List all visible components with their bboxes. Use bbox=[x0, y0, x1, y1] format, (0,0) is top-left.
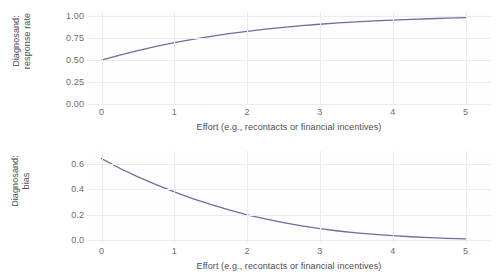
gridline-horizontal bbox=[87, 240, 491, 241]
y-axis-title-bias: Diagnosand:bias bbox=[10, 139, 34, 223]
figure-canvas: Diagnosand:response rate 0.000.250.500.7… bbox=[0, 0, 500, 275]
x-tick-label: 0 bbox=[99, 107, 104, 117]
x-tick-label: 2 bbox=[245, 246, 250, 256]
x-tick-label: 4 bbox=[390, 246, 395, 256]
x-tick-label: 1 bbox=[172, 246, 177, 256]
y-tick-label: 0.00 bbox=[48, 99, 84, 109]
x-axis-title-response-rate: Effort (e.g., recontacts or financial in… bbox=[87, 122, 491, 132]
gridline-horizontal bbox=[87, 104, 491, 105]
gridline-horizontal bbox=[87, 189, 491, 190]
x-tick-label: 3 bbox=[317, 107, 322, 117]
gridline-horizontal bbox=[87, 16, 491, 17]
x-tick-label: 5 bbox=[463, 107, 468, 117]
gridline-horizontal bbox=[87, 164, 491, 165]
curve-bias bbox=[87, 151, 491, 243]
gridline-vertical bbox=[466, 151, 467, 243]
gridline-horizontal bbox=[87, 215, 491, 216]
gridline-vertical bbox=[102, 12, 103, 104]
y-tick-label: 0.0 bbox=[48, 235, 84, 245]
x-axis-title-bias: Effort (e.g., recontacts or financial in… bbox=[87, 261, 491, 271]
gridline-vertical bbox=[393, 151, 394, 243]
y-tick-labels-response-rate: 0.000.250.500.751.00 bbox=[44, 0, 84, 137]
y-axis-title-line1: Diagnosand: bbox=[11, 15, 21, 67]
x-tick-labels-response-rate: 012345 bbox=[87, 107, 491, 121]
gridline-horizontal bbox=[87, 38, 491, 39]
x-tick-label: 5 bbox=[463, 246, 468, 256]
x-tick-label: 0 bbox=[99, 246, 104, 256]
gridline-vertical bbox=[320, 12, 321, 104]
gridline-vertical bbox=[393, 12, 394, 104]
curve-response-rate bbox=[87, 12, 491, 104]
x-tick-labels-bias: 012345 bbox=[87, 246, 491, 260]
y-axis-title-line2: response rate bbox=[22, 13, 32, 69]
gridline-horizontal bbox=[87, 82, 491, 83]
data-line-bias bbox=[102, 159, 466, 239]
y-tick-label: 0.2 bbox=[48, 210, 84, 220]
gridline-horizontal bbox=[87, 60, 491, 61]
plot-area-response-rate bbox=[87, 12, 491, 104]
y-tick-label: 1.00 bbox=[48, 11, 84, 21]
x-tick-label: 1 bbox=[172, 107, 177, 117]
y-axis-title-line1: Diagnosand: bbox=[10, 155, 20, 207]
plot-area-bias bbox=[87, 151, 491, 243]
x-tick-label: 2 bbox=[245, 107, 250, 117]
gridline-vertical bbox=[247, 151, 248, 243]
y-tick-labels-bias: 0.00.20.40.6 bbox=[44, 137, 84, 275]
gridline-vertical bbox=[174, 151, 175, 243]
y-tick-label: 0.25 bbox=[48, 77, 84, 87]
y-tick-label: 0.4 bbox=[48, 184, 84, 194]
y-axis-title-response-rate: Diagnosand:response rate bbox=[11, 0, 35, 91]
gridline-vertical bbox=[174, 12, 175, 104]
gridline-vertical bbox=[466, 12, 467, 104]
panel-bias: Diagnosand:bias 0.00.20.40.6 012345 Effo… bbox=[0, 137, 500, 275]
y-tick-label: 0.75 bbox=[48, 33, 84, 43]
x-tick-label: 3 bbox=[317, 246, 322, 256]
gridline-vertical bbox=[320, 151, 321, 243]
y-tick-label: 0.6 bbox=[48, 159, 84, 169]
gridline-vertical bbox=[247, 12, 248, 104]
panel-response-rate: Diagnosand:response rate 0.000.250.500.7… bbox=[0, 0, 500, 137]
x-tick-label: 4 bbox=[390, 107, 395, 117]
y-axis-title-line2: bias bbox=[21, 173, 31, 190]
y-tick-label: 0.50 bbox=[48, 55, 84, 65]
gridline-vertical bbox=[102, 151, 103, 243]
